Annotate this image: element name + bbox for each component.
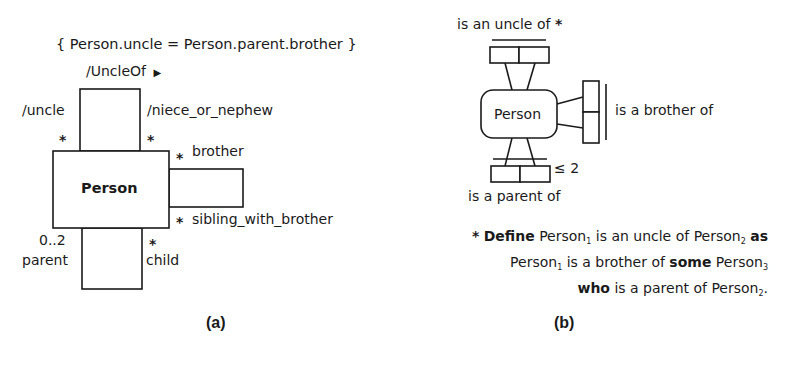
role-box-uncle-2 (519, 47, 549, 63)
connector-parent-right (527, 138, 535, 166)
derived-asterisk: * (555, 16, 562, 32)
caption-b: (b) (554, 314, 574, 332)
derivation-rule-line-1: * Define Person1 is an uncle of Person2 … (472, 226, 768, 252)
entity-name-person: Person (494, 106, 541, 122)
connector-uncle-left (505, 63, 512, 90)
fact-reading-parent: is a parent of (468, 188, 561, 204)
fact-reading-uncle: is an uncle of * (457, 16, 562, 32)
derivation-rule-line-2: Person1 is a brother of some Person3 (472, 252, 768, 278)
panel-b-shapes (0, 0, 810, 368)
connector-brother-top (557, 97, 583, 104)
frequency-constraint-parent: ≤ 2 (554, 160, 579, 176)
connector-parent-left (505, 138, 512, 166)
role-box-parent-1 (491, 166, 520, 182)
role-box-parent-2 (520, 166, 550, 182)
connector-uncle-right (527, 63, 535, 90)
derivation-rule: * Define Person1 is an uncle of Person2 … (472, 226, 768, 304)
fact-reading-brother: is a brother of (615, 102, 713, 118)
role-box-brother-2 (583, 112, 599, 143)
role-box-brother-1 (583, 81, 599, 112)
connector-brother-bottom (557, 124, 583, 128)
role-box-uncle-1 (490, 47, 519, 63)
derivation-rule-line-3: who is a parent of Person2. (472, 278, 768, 304)
